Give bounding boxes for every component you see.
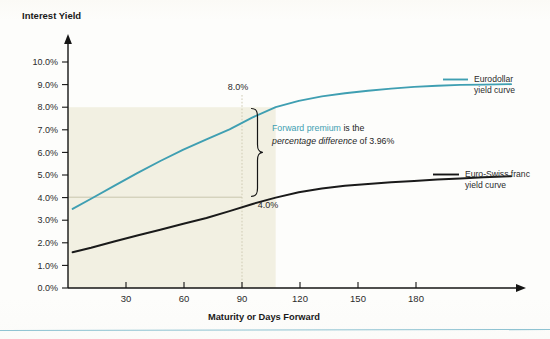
x-tick-label: 150 <box>350 293 366 304</box>
legend-label-euroswiss-line1: Euro-Swiss franc <box>465 169 531 179</box>
x-tick-label: 30 <box>121 293 132 304</box>
y-tick-label: 5.0% <box>37 170 58 180</box>
yield-curve-chart: 0.0% 1.0% 2.0% 3.0% 4.0% 5.0% 6.0% 7.0% … <box>0 0 550 339</box>
y-tick-label: 4.0% <box>37 193 58 203</box>
x-axis-arrowhead <box>516 284 526 292</box>
x-axis-title: Maturity or Days Forward <box>208 312 320 322</box>
callout-tail-plain: of 3.96% <box>357 136 394 146</box>
y-tick-label: 10.0% <box>32 57 58 67</box>
legend-label-eurodollar-line1: Eurodollar <box>474 74 513 84</box>
y-axis-ticks <box>62 62 68 288</box>
callout-lead-teal: Forward premium <box>272 123 341 133</box>
eurodollar-90day-value: 8.0% <box>228 82 249 92</box>
x-tick-label: 60 <box>179 293 190 304</box>
y-tick-label: 1.0% <box>37 261 58 271</box>
callout-mid-plain: is the <box>341 123 365 133</box>
euroswiss-90day-value: 4.0% <box>258 200 279 210</box>
y-tick-label: 8.0% <box>37 102 58 112</box>
y-tick-label: 2.0% <box>37 238 58 248</box>
y-tick-label: 6.0% <box>37 148 58 158</box>
x-tick-label: 180 <box>408 293 424 304</box>
y-axis-arrowhead <box>64 34 72 44</box>
y-tick-label: 9.0% <box>37 80 58 90</box>
forward-premium-callout-line1: Forward premium is the <box>272 123 365 133</box>
x-tick-label: 120 <box>292 293 308 304</box>
legend-label-euroswiss-line2: yield curve <box>465 180 506 190</box>
y-axis-title: Interest Yield <box>22 10 81 21</box>
legend-label-eurodollar-line2: yield curve <box>474 85 515 95</box>
forward-premium-callout-line2: percentage difference of 3.96% <box>271 136 394 146</box>
y-tick-label: 3.0% <box>37 215 58 225</box>
callout-emphasis-italic: percentage difference <box>271 136 357 146</box>
bottom-rule <box>0 330 550 331</box>
y-tick-label: 7.0% <box>37 125 58 135</box>
x-tick-label: 90 <box>237 293 248 304</box>
y-tick-label: 0.0% <box>37 283 58 293</box>
